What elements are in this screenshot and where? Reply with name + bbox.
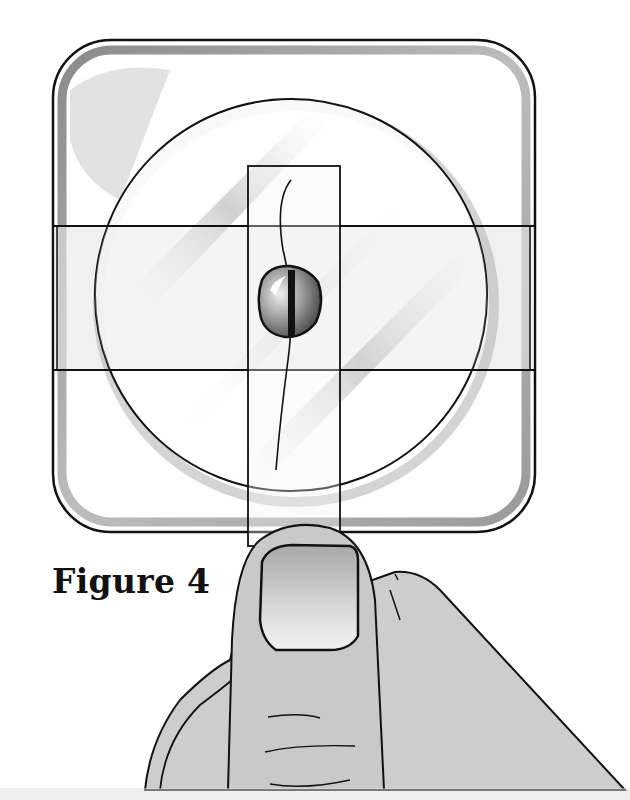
thumb (228, 525, 384, 790)
figure-illustration: Figure 4 (0, 0, 630, 800)
specimen-spot (259, 266, 321, 337)
figure-caption: Figure 4 (52, 562, 210, 601)
illustration-graphic (0, 0, 630, 800)
hand (145, 572, 625, 790)
vertical-strip (248, 166, 340, 546)
